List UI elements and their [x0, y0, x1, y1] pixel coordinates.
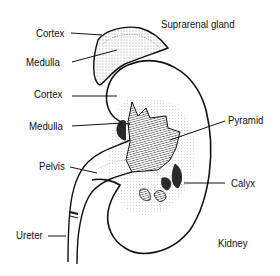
- label-calyx: Calyx: [231, 177, 255, 189]
- label-medulla-gland: Medulla: [26, 56, 60, 68]
- label-kidney: Kidney: [218, 237, 248, 249]
- label-cortex-gland: Cortex: [36, 27, 64, 39]
- leader-cortex-gland: [71, 33, 102, 35]
- label-ureter: Ureter: [16, 229, 43, 241]
- label-cortex-kidney: Cortex: [34, 88, 62, 100]
- label-medulla-kidney: Medulla: [29, 120, 63, 132]
- label-pyramid: Pyramid: [228, 114, 263, 126]
- label-pelvis: Pelvis: [39, 160, 65, 172]
- suprarenal-gland: [94, 27, 168, 85]
- label-suprarenal-gland: Suprarenal gland: [161, 18, 235, 30]
